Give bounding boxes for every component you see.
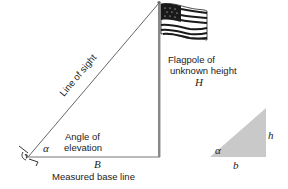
triangle-height-symbol: h [268, 129, 274, 141]
flagpole-label-line1: Flagpole of [168, 54, 215, 65]
triangle-angle-symbol: α [215, 144, 221, 156]
line-of-sight-label: Line of sight [57, 52, 99, 99]
flagpole-symbol: H [194, 76, 204, 88]
base-line-label: Measured base line [52, 171, 135, 182]
triangle-base-symbol: b [233, 159, 239, 171]
angle-label-line2: elevation [64, 142, 102, 153]
angle-symbol: α [43, 142, 49, 154]
flagpole-diagram: Line of sight Flagpole of unknown height… [0, 0, 288, 189]
flag-icon [161, 3, 207, 40]
angle-label-line1: Angle of [65, 131, 100, 142]
flagpole-label-line2: unknown height [170, 65, 237, 76]
base-symbol: B [94, 158, 101, 170]
